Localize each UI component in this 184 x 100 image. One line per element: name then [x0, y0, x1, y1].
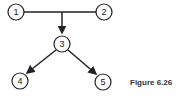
- node-2-label: 2: [101, 7, 106, 17]
- edge-3-4: [27, 50, 56, 73]
- node-4-label: 4: [17, 76, 22, 86]
- edge-3-5: [68, 50, 96, 74]
- node-3: 3: [54, 36, 70, 52]
- node-5-label: 5: [100, 77, 105, 87]
- node-3-label: 3: [59, 39, 64, 49]
- node-1-label: 1: [13, 7, 18, 17]
- node-1: 1: [8, 4, 24, 20]
- node-5: 5: [95, 74, 111, 90]
- node-4: 4: [12, 73, 28, 89]
- node-2: 2: [96, 4, 112, 20]
- figure-caption: Figure 6.26: [130, 78, 172, 87]
